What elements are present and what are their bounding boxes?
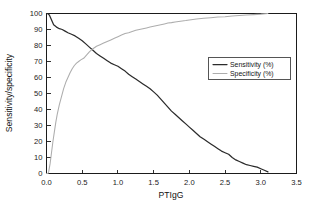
- y-tick-label: 80: [34, 41, 42, 50]
- chart-canvas: 0.00.51.01.52.02.53.03.5 010203040506070…: [0, 0, 315, 209]
- y-tick-label: 0: [38, 169, 42, 178]
- series-line-specificity: [47, 14, 268, 174]
- y-axis-ticks: 0102030405060708090100: [30, 9, 51, 178]
- x-tick-label: 2.0: [184, 178, 195, 187]
- plot-frame: [47, 14, 297, 174]
- y-tick-label: 90: [34, 25, 42, 34]
- y-axis-title: Sensitivity/specificity: [4, 53, 14, 132]
- y-tick-label: 40: [34, 105, 42, 114]
- y-tick-label: 100: [30, 9, 43, 18]
- x-tick-label: 0.0: [41, 178, 52, 187]
- chart-legend: Sensitivity (%) Specificity (%): [209, 58, 291, 80]
- y-tick-label: 70: [34, 57, 42, 66]
- x-tick-label: 0.5: [77, 178, 88, 187]
- y-tick-label: 30: [34, 121, 42, 130]
- y-tick-label: 60: [34, 73, 42, 82]
- x-tick-label: 1.0: [113, 178, 124, 187]
- x-tick-label: 2.5: [220, 178, 231, 187]
- x-tick-label: 3.0: [256, 178, 267, 187]
- figure-container: 0.00.51.01.52.02.53.03.5 010203040506070…: [0, 0, 315, 209]
- y-tick-label: 20: [34, 137, 42, 146]
- legend-label-sensitivity: Sensitivity (%): [230, 61, 274, 69]
- y-tick-label: 50: [34, 89, 42, 98]
- y-tick-label: 10: [34, 153, 42, 162]
- x-axis-ticks: 0.00.51.01.52.02.53.03.5: [41, 170, 302, 187]
- series-line-sensitivity: [47, 14, 268, 172]
- series-lines: [47, 14, 268, 174]
- legend-label-specificity: Specificity (%): [230, 70, 274, 78]
- x-axis-title: PTIgG: [159, 190, 184, 200]
- x-tick-label: 1.5: [148, 178, 159, 187]
- x-tick-label: 3.5: [291, 178, 302, 187]
